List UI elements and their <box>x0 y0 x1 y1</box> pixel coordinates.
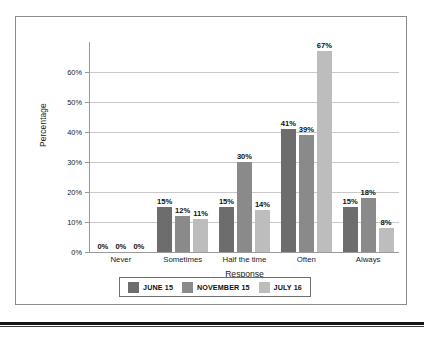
x-axis-label: Sometimes <box>152 255 214 264</box>
bar-slot: 30% <box>237 42 252 252</box>
bar-value-label: 11% <box>193 209 208 218</box>
x-axis-label: Often <box>275 255 337 264</box>
legend-label: JUNE 15 <box>143 283 173 292</box>
bar-slot: 0% <box>131 42 146 252</box>
bar-slot: 11% <box>193 42 208 252</box>
y-tick-mark <box>85 162 89 163</box>
bar-value-label: 14% <box>255 200 270 209</box>
bar[interactable] <box>255 210 270 252</box>
bar-value-label: 15% <box>157 197 172 206</box>
bar[interactable] <box>219 207 234 252</box>
bar-value-label: 8% <box>381 218 392 227</box>
bar-layer: 0%0%0%15%12%11%15%30%14%41%39%67%15%18%8… <box>90 42 399 252</box>
legend-item[interactable]: NOVEMBER 15 <box>182 282 250 293</box>
bar-value-label: 18% <box>360 188 375 197</box>
bar-slot: 12% <box>175 42 190 252</box>
bar[interactable] <box>317 51 332 252</box>
y-tick-label: 40% <box>67 128 82 137</box>
chart-legend: JUNE 15NOVEMBER 15JULY 16 <box>119 277 311 297</box>
bar-value-label: 15% <box>342 197 357 206</box>
bar-group: 15%30%14% <box>214 42 276 252</box>
bar-value-label: 12% <box>175 206 190 215</box>
y-tick-mark <box>85 72 89 73</box>
bar-slot: 15% <box>219 42 234 252</box>
gridline-0% <box>89 252 399 253</box>
legend-label: JULY 16 <box>274 283 302 292</box>
bar-value-label: 15% <box>219 197 234 206</box>
bar[interactable] <box>299 135 314 252</box>
bar-slot: 0% <box>113 42 128 252</box>
bar-group: 0%0%0% <box>90 42 152 252</box>
bar-group: 15%12%11% <box>152 42 214 252</box>
bar-slot: 15% <box>157 42 172 252</box>
bar-value-label: 67% <box>317 41 332 50</box>
bar-group: 41%39%67% <box>275 42 337 252</box>
x-axis-label: Always <box>337 255 399 264</box>
page-divider-rule-thin <box>0 326 424 327</box>
bar-value-label: 30% <box>237 152 252 161</box>
y-tick-label: 20% <box>67 188 82 197</box>
y-tick-mark <box>85 252 89 253</box>
x-axis-label: Never <box>90 255 152 264</box>
y-axis-title: Percentage <box>38 103 48 147</box>
y-tick-mark <box>85 222 89 223</box>
y-tick-label: 50% <box>67 98 82 107</box>
chart-figure-frame: Percentage 0%10%20%30%40%50%60% 0%0%0%15… <box>15 16 407 305</box>
bar-slot: 41% <box>281 42 296 252</box>
bar[interactable] <box>193 219 208 252</box>
plot-inner: 0%10%20%30%40%50%60% 0%0%0%15%12%11%15%3… <box>89 42 399 252</box>
bar-slot: 67% <box>317 42 332 252</box>
bar-slot: 15% <box>343 42 358 252</box>
legend-swatch-icon <box>259 282 270 293</box>
bar-value-label: 0% <box>115 242 126 251</box>
bar[interactable] <box>361 198 376 252</box>
bar-value-label: 0% <box>133 242 144 251</box>
page-divider-rule <box>0 322 424 325</box>
y-tick-label: 30% <box>67 158 82 167</box>
legend-swatch-icon <box>182 282 193 293</box>
legend-swatch-icon <box>128 282 139 293</box>
bar-slot: 18% <box>361 42 376 252</box>
legend-item[interactable]: JULY 16 <box>259 282 302 293</box>
legend-item[interactable]: JUNE 15 <box>128 282 173 293</box>
bar[interactable] <box>175 216 190 252</box>
legend-label: NOVEMBER 15 <box>197 283 250 292</box>
x-axis-label: Half the time <box>214 255 276 264</box>
bar-value-label: 0% <box>97 242 108 251</box>
y-tick-mark <box>85 192 89 193</box>
y-tick-label: 0% <box>71 248 82 257</box>
bar[interactable] <box>343 207 358 252</box>
y-tick-mark <box>85 102 89 103</box>
bar-slot: 8% <box>379 42 394 252</box>
bar-value-label: 41% <box>281 119 296 128</box>
y-tick-label: 60% <box>67 68 82 77</box>
bar[interactable] <box>237 162 252 252</box>
bar[interactable] <box>157 207 172 252</box>
bar-value-label: 39% <box>299 125 314 134</box>
bar[interactable] <box>379 228 394 252</box>
bar-slot: 0% <box>95 42 110 252</box>
bar-slot: 14% <box>255 42 270 252</box>
y-tick-label: 10% <box>67 218 82 227</box>
bar[interactable] <box>281 129 296 252</box>
plot-area: 0%10%20%30%40%50%60% 0%0%0%15%12%11%15%3… <box>89 42 399 252</box>
x-axis-tick-labels: NeverSometimesHalf the timeOftenAlways <box>90 255 399 264</box>
y-tick-mark <box>85 132 89 133</box>
bar-slot: 39% <box>299 42 314 252</box>
bar-group: 15%18%8% <box>337 42 399 252</box>
